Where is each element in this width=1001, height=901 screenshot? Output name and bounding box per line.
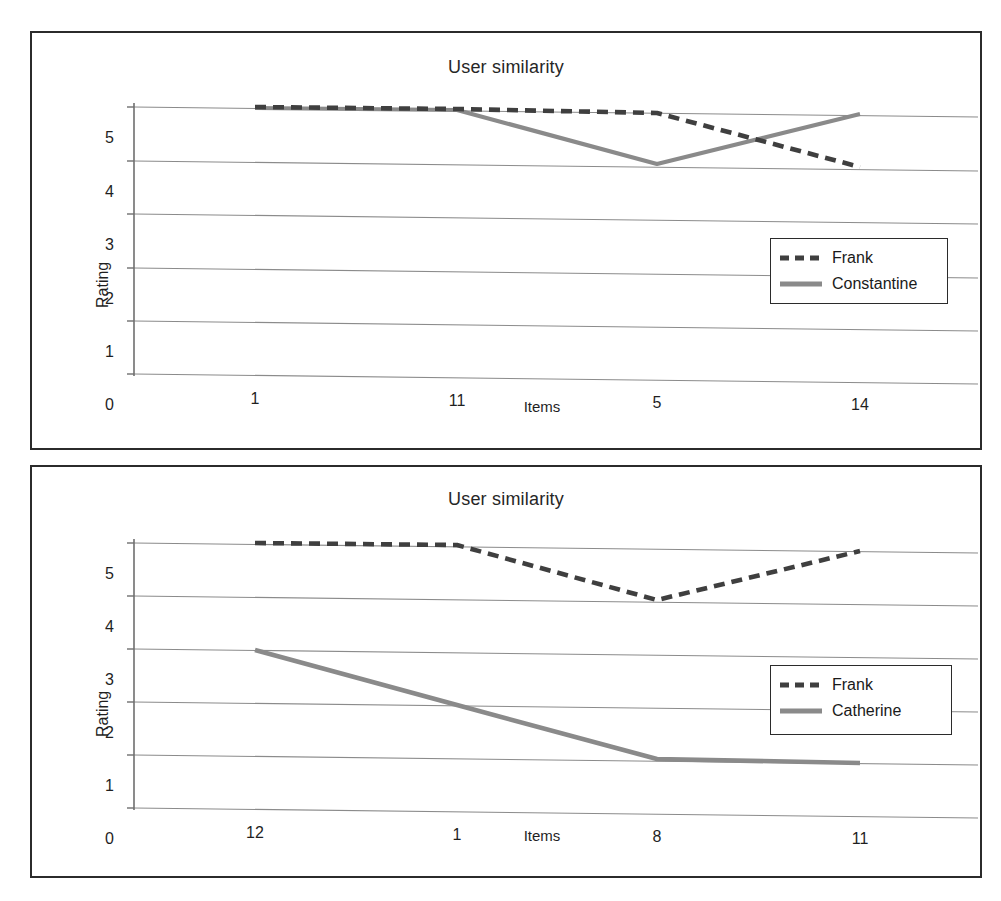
- legend-item-frank: Frank: [779, 245, 937, 271]
- y-tick-label-3: 3: [92, 236, 114, 254]
- gridline-1: [134, 321, 978, 331]
- legend-item-constantine: Constantine: [779, 271, 937, 297]
- x-axis-title: Items: [412, 827, 672, 844]
- y-tick-label-0: 0: [92, 830, 114, 848]
- legend-item-catherine: Catherine: [779, 698, 941, 724]
- x-tick-label-0: 12: [235, 824, 275, 842]
- legend-label-constantine: Constantine: [832, 275, 917, 293]
- legend-swatch-dashed-icon: [779, 251, 823, 265]
- y-tick-marks: [127, 107, 134, 374]
- series-line-constantine: [255, 108, 860, 164]
- legend-item-frank: Frank: [779, 672, 941, 698]
- x-tick-label-3: 11: [840, 830, 880, 848]
- gridline-4: [134, 596, 978, 606]
- gridline-0: [134, 374, 978, 384]
- y-tick-marks: [127, 543, 134, 808]
- legend-label-catherine: Catherine: [832, 702, 901, 720]
- y-tick-label-1: 1: [92, 777, 114, 795]
- x-tick-label-0: 1: [235, 390, 275, 408]
- x-axis-title: Items: [412, 398, 672, 415]
- y-axis-title: Rating: [94, 691, 112, 737]
- y-tick-label-5: 5: [92, 129, 114, 147]
- y-axis-title: Rating: [94, 262, 112, 308]
- y-tick-label-0: 0: [92, 396, 114, 414]
- y-tick-label-4: 4: [92, 183, 114, 201]
- screenshot-page: User similarity: [0, 0, 1001, 901]
- chart-panel-bottom: User similarity: [30, 465, 982, 878]
- gridline-0: [134, 808, 978, 818]
- x-tick-label-3: 14: [840, 396, 880, 414]
- legend-swatch-dashed-icon: [779, 678, 823, 692]
- chart-panel-top: User similarity: [30, 31, 982, 450]
- legend-label-frank: Frank: [832, 249, 873, 267]
- y-tick-label-1: 1: [92, 343, 114, 361]
- legend: Frank Catherine: [770, 665, 952, 735]
- legend: Frank Constantine: [770, 238, 948, 304]
- legend-label-frank: Frank: [832, 676, 873, 694]
- legend-swatch-solid-icon: [779, 277, 823, 291]
- gridline-3: [134, 214, 978, 224]
- y-tick-label-5: 5: [92, 565, 114, 583]
- series-line-frank: [255, 543, 860, 600]
- y-tick-label-3: 3: [92, 671, 114, 689]
- legend-swatch-solid-icon: [779, 704, 823, 718]
- y-tick-label-4: 4: [92, 618, 114, 636]
